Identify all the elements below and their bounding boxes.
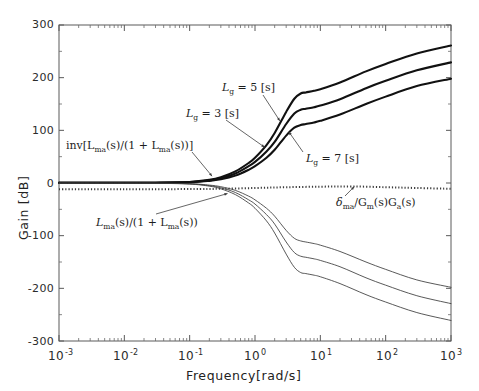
annotation-lg7: Lg = 7 [s] bbox=[306, 152, 359, 167]
x-tick-base: 10 bbox=[440, 349, 456, 363]
y-tick-label: 300 bbox=[22, 18, 54, 31]
x-axis-title: Frequency[rad/s] bbox=[186, 368, 301, 383]
annotation-delta-middle-2: (s)G bbox=[374, 196, 397, 209]
x-tick-exponent: 1 bbox=[327, 348, 332, 357]
x-tick-label: 10-3 bbox=[48, 348, 73, 363]
x-tick-base: 10 bbox=[48, 349, 64, 363]
x-tick-exponent: -2 bbox=[130, 348, 139, 357]
leader-lma-arrowhead bbox=[224, 193, 227, 196]
leader-inv bbox=[192, 152, 212, 176]
y-axis-title: Gain [dB] bbox=[16, 176, 31, 240]
annotation-inv-middle: (s)/(1 + L bbox=[106, 139, 159, 152]
x-tick-base: 10 bbox=[376, 349, 392, 363]
x-tick-base: 10 bbox=[113, 349, 129, 363]
x-tick-label: 102 bbox=[376, 348, 398, 363]
x-tick-exponent: -3 bbox=[65, 348, 74, 357]
x-tick-label: 100 bbox=[244, 348, 266, 363]
x-tick-base: 10 bbox=[244, 349, 260, 363]
x-tick-exponent: -1 bbox=[195, 348, 204, 357]
annotation-lg3-value: = 3 [s] bbox=[198, 107, 239, 120]
x-tick-label: 10-1 bbox=[178, 348, 203, 363]
x-tick-exponent: 3 bbox=[457, 348, 462, 357]
x-tick-base: 10 bbox=[310, 349, 326, 363]
y-tick-label: 100 bbox=[22, 124, 54, 137]
annotation-inv-complementary-sensitivity: inv[Lma(s)/(1 + Lma(s))] bbox=[66, 139, 193, 154]
annotation-inv-subscript-2: ma bbox=[159, 145, 171, 154]
leader-lg7 bbox=[289, 132, 303, 152]
leader-lg3 bbox=[226, 120, 265, 147]
annotation-lma-middle: (s)/(1 + L bbox=[115, 216, 168, 229]
annotation-inv-subscript-1: ma bbox=[94, 145, 106, 154]
x-tick-base: 10 bbox=[178, 349, 194, 363]
annotation-lma-subscript-1: ma bbox=[103, 222, 115, 231]
annotation-lma-subscript-2: ma bbox=[168, 222, 180, 231]
y-tick-label: 200 bbox=[22, 71, 54, 84]
annotation-lg5-value: = 5 [s] bbox=[234, 81, 275, 94]
annotation-lma-suffix: (s)) bbox=[179, 216, 198, 229]
annotation-delta-symbol: δ bbox=[336, 196, 343, 209]
bode-gain-plot-figure: 300 200 100 0 -100 -200 -300 Gain [dB] 1… bbox=[0, 0, 479, 391]
annotation-delta-subscript-1: ma bbox=[343, 202, 355, 211]
annotation-complementary-sensitivity: Lma(s)/(1 + Lma(s)) bbox=[96, 216, 198, 231]
x-tick-label: 101 bbox=[310, 348, 332, 363]
annotation-uncertainty-bound: δma/Gm(s)Ga(s) bbox=[336, 196, 416, 211]
x-tick-exponent: 0 bbox=[261, 348, 266, 357]
annotation-inv-suffix: (s))] bbox=[170, 139, 193, 152]
annotation-delta-subscript-2: m bbox=[367, 202, 374, 211]
y-tick-label: -300 bbox=[18, 335, 54, 348]
leader-lma bbox=[156, 194, 228, 214]
y-tick-label: -200 bbox=[18, 282, 54, 295]
annotation-lg5: Lg = 5 [s] bbox=[222, 81, 275, 96]
series-6 bbox=[59, 186, 451, 189]
annotation-delta-middle-1: /G bbox=[354, 196, 367, 209]
x-tick-label: 103 bbox=[440, 348, 462, 363]
annotation-lg3: Lg = 3 [s] bbox=[186, 107, 239, 122]
annotation-delta-suffix: (s) bbox=[401, 196, 415, 209]
x-tick-exponent: 2 bbox=[393, 348, 398, 357]
annotation-inv-prefix: inv[L bbox=[66, 139, 94, 152]
leader-lg5 bbox=[263, 95, 280, 121]
x-tick-label: 10-2 bbox=[113, 348, 138, 363]
annotation-lg7-value: = 7 [s] bbox=[318, 152, 359, 165]
